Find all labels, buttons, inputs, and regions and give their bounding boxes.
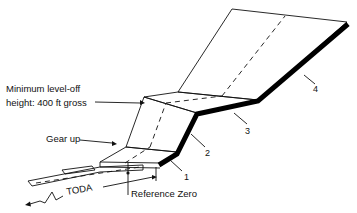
segment-label-1: 1 [170, 160, 189, 182]
svg-text:Gear up: Gear up [46, 133, 80, 144]
takeoff-flight-path-diagram: 1 2 3 4 Minimum level-off height: 400 ft… [0, 0, 357, 213]
segment-label-4: 4 [304, 75, 318, 94]
arrowhead-icon [25, 202, 31, 207]
svg-text:Reference Zero: Reference Zero [131, 188, 197, 199]
segment-label-3: 3 [234, 113, 250, 136]
svg-text:TODA: TODA [65, 181, 93, 197]
svg-text:Minimum level-off: Minimum level-off [6, 83, 81, 94]
segment-4-surface [178, 9, 347, 100]
arrowhead-icon [112, 141, 117, 146]
segment-2-surface [126, 97, 197, 152]
level-off-annotation: Minimum level-off height: 400 ft gross [6, 83, 145, 108]
segment-label-2: 2 [191, 134, 210, 158]
svg-text:height: 400 ft gross: height: 400 ft gross [6, 97, 87, 108]
svg-text:2: 2 [205, 148, 210, 158]
svg-text:4: 4 [313, 84, 318, 94]
gear-up-annotation: Gear up [46, 133, 117, 146]
flight-path-line [159, 24, 348, 165]
toda-dimension: TODA [25, 167, 157, 207]
svg-text:3: 3 [245, 126, 250, 136]
svg-text:1: 1 [184, 172, 189, 182]
